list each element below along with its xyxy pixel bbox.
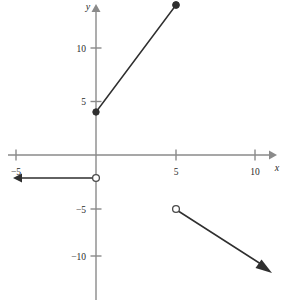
axes-group <box>8 4 277 300</box>
middle-segment-line <box>96 5 176 112</box>
y-tick-label-10: 10 <box>77 44 87 54</box>
x-tick-label-5: 5 <box>174 167 179 177</box>
y-axis-arrowhead <box>92 4 101 12</box>
y-tick-label-neg5: −5 <box>76 205 86 215</box>
tick-marks-group <box>16 48 255 256</box>
closed-endpoint-segment-end <box>173 2 180 9</box>
open-endpoint-left-ray <box>93 175 100 182</box>
graph-figure: −5 5 10 10 5 −5 −10 x y <box>0 0 284 304</box>
closed-endpoint-segment-start <box>93 109 99 115</box>
x-axis-label: x <box>274 162 280 173</box>
right-ray-line <box>179 212 264 267</box>
left-ray-group <box>13 174 99 183</box>
coordinate-plane-svg: −5 5 10 10 5 −5 −10 x y <box>0 0 284 304</box>
y-tick-label-neg10: −10 <box>71 252 86 262</box>
middle-segment-group <box>93 2 180 116</box>
x-tick-label-10: 10 <box>250 167 260 177</box>
y-tick-label-5: 5 <box>81 97 86 107</box>
open-endpoint-right-ray <box>173 206 180 213</box>
tick-labels-group: −5 5 10 10 5 −5 −10 <box>11 44 260 262</box>
y-axis-label: y <box>85 1 91 12</box>
x-axis-arrowhead <box>269 151 277 160</box>
right-ray-group <box>173 206 272 273</box>
